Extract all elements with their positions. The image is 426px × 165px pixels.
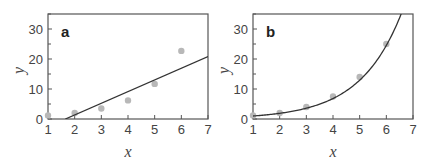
x-axis-label: x bbox=[123, 143, 131, 160]
data-point bbox=[45, 112, 51, 118]
x-tick-label: 3 bbox=[98, 122, 105, 137]
chart-figure: 01020301234567xya01020301234567xyb bbox=[0, 0, 426, 165]
plot-frame-b bbox=[253, 14, 413, 119]
x-tick-label: 6 bbox=[383, 122, 390, 137]
data-point bbox=[178, 48, 184, 54]
x-tick-label: 7 bbox=[204, 122, 211, 137]
x-tick-label: 5 bbox=[356, 122, 363, 137]
x-tick-label: 4 bbox=[124, 122, 131, 137]
panel-label-b: b bbox=[266, 23, 275, 40]
linear-fit-line bbox=[65, 57, 208, 119]
x-tick-label: 2 bbox=[276, 122, 283, 137]
y-tick-label: 20 bbox=[29, 52, 43, 67]
y-tick-label: 0 bbox=[36, 112, 43, 127]
exponential-fit-curve bbox=[253, 0, 406, 116]
y-tick-label: 10 bbox=[29, 82, 43, 97]
y-axis-label: y bbox=[10, 66, 28, 76]
y-axis-label: y bbox=[215, 66, 233, 76]
y-tick-label: 30 bbox=[29, 22, 43, 37]
y-tick-label: 0 bbox=[241, 112, 248, 127]
x-tick-label: 1 bbox=[249, 122, 256, 137]
x-tick-label: 6 bbox=[178, 122, 185, 137]
x-axis-label: x bbox=[328, 143, 336, 160]
panel-label-a: a bbox=[61, 23, 70, 40]
x-tick-label: 4 bbox=[329, 122, 336, 137]
y-tick-label: 30 bbox=[234, 22, 248, 37]
data-point bbox=[98, 105, 104, 111]
x-tick-label: 1 bbox=[44, 122, 51, 137]
data-point bbox=[356, 74, 362, 80]
y-tick-label: 10 bbox=[234, 82, 248, 97]
y-tick-label: 20 bbox=[234, 52, 248, 67]
x-tick-label: 5 bbox=[151, 122, 158, 137]
data-point bbox=[125, 97, 131, 103]
x-tick-label: 3 bbox=[303, 122, 310, 137]
x-tick-label: 7 bbox=[409, 122, 416, 137]
data-point bbox=[151, 81, 157, 87]
x-tick-label: 2 bbox=[71, 122, 78, 137]
